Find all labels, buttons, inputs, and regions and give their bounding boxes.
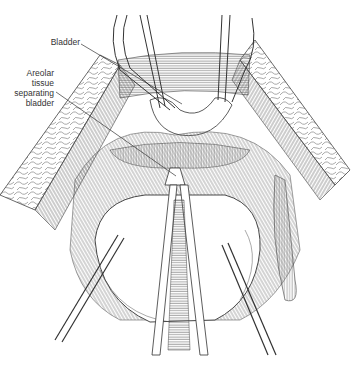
areolar-tissue-label: Areolar tissue separating bladder <box>4 68 54 108</box>
retracted-bladder-region <box>118 52 250 135</box>
surgical-illustration <box>0 0 363 365</box>
bladder-label-text: Bladder <box>51 37 80 47</box>
areolar-label-line-4: bladder <box>4 98 54 108</box>
areolar-label-line-1: Areolar <box>4 68 54 78</box>
areolar-label-line-2: tissue <box>4 78 54 88</box>
bladder-label: Bladder <box>28 37 80 47</box>
areolar-label-line-3: separating <box>4 88 54 98</box>
